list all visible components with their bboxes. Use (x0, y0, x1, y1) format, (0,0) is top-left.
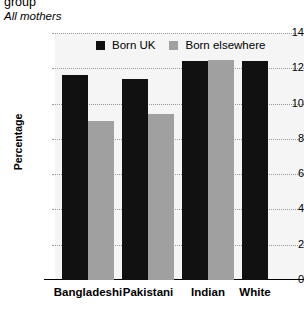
y-axis-tick-label: 4 (260, 203, 304, 214)
y-axis-tick-label: 14 (260, 27, 304, 38)
legend-entry-born-elsewhere: Born elsewhere (169, 39, 265, 51)
legend-label: Born UK (112, 39, 155, 51)
y-axis-tick-label: 6 (260, 168, 304, 179)
y-axis-tick-label: 10 (260, 98, 304, 109)
y-axis-title: Percentage (12, 97, 24, 187)
x-axis-tick-label: White (210, 286, 300, 298)
x-axis-line (44, 279, 304, 280)
legend-swatch-icon (96, 41, 105, 50)
y-axis-tick-label: 2 (260, 239, 304, 250)
legend-label: Born elsewhere (185, 39, 265, 51)
chart-figure: group All mothers 02468101214 Percentage… (0, 0, 304, 322)
y-axis-tick-label: 8 (260, 133, 304, 144)
y-axis-tick-label: 12 (260, 62, 304, 73)
figure-title-truncated: group (4, 0, 36, 9)
legend-swatch-icon (169, 41, 178, 50)
legend: Born UK Born elsewhere (96, 39, 265, 51)
legend-entry-born-uk: Born UK (96, 39, 155, 51)
figure-subtitle: All mothers (4, 10, 62, 22)
